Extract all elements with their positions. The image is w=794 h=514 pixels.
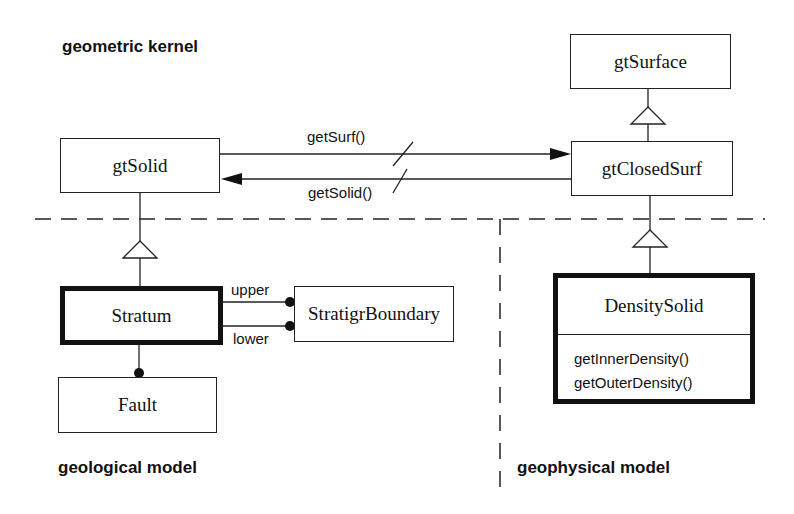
class-name: gtClosedSurf (602, 158, 702, 180)
generalization-triangle-icon (631, 107, 665, 124)
region-label-geophysical-model: geophysical model (517, 458, 670, 478)
class-gtsolid[interactable]: gtSolid (60, 138, 220, 193)
slash-mark-icon (393, 169, 407, 193)
operation-get-inner-density: getInnerDensity() (574, 347, 750, 371)
generalization-triangle-icon (123, 241, 157, 258)
class-densitysolid[interactable]: DensitySolid getInnerDensity() getOuterD… (553, 273, 755, 404)
operation-get-outer-density: getOuterDensity() (574, 371, 750, 395)
generalization-triangle-icon (633, 230, 667, 247)
arrowhead-right-icon (550, 148, 571, 160)
arrowhead-left-icon (221, 173, 242, 185)
uml-diagram: geometric kernel geological model geophy… (0, 0, 794, 514)
operations-compartment: getInnerDensity() getOuterDensity() (558, 335, 750, 395)
class-name: Stratum (111, 305, 171, 327)
class-fault[interactable]: Fault (58, 377, 217, 433)
class-name: Fault (118, 394, 157, 416)
region-label-geological-model: geological model (58, 458, 197, 478)
class-gtclosedsurf[interactable]: gtClosedSurf (571, 141, 733, 196)
class-gtsurface[interactable]: gtSurface (570, 34, 731, 89)
region-label-geometric-kernel: geometric kernel (62, 37, 198, 57)
class-name: DensitySolid (558, 278, 750, 335)
class-stratum[interactable]: Stratum (60, 286, 223, 345)
association-label-getsolid: getSolid() (308, 184, 372, 201)
class-stratigrboundary[interactable]: StratigrBoundary (294, 286, 454, 342)
class-name: gtSolid (113, 155, 168, 177)
role-label-upper: upper (231, 281, 269, 298)
class-name: StratigrBoundary (308, 303, 440, 325)
class-name: gtSurface (614, 51, 687, 73)
role-label-lower: lower (233, 330, 269, 347)
association-label-getsurf: getSurf() (307, 128, 365, 145)
